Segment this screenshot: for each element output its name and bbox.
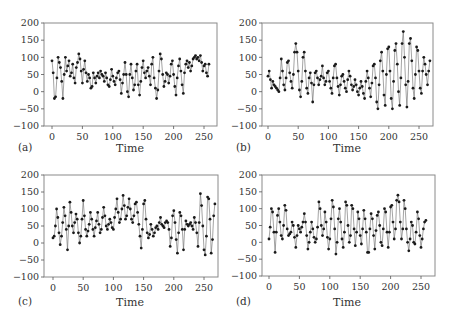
data-point [201, 225, 204, 228]
data-point [337, 217, 340, 220]
data-point [104, 214, 107, 217]
data-point [125, 73, 128, 76]
y-tick-label: 0 [33, 237, 39, 248]
data-point [142, 59, 145, 62]
data-point [137, 223, 140, 226]
data-point [121, 208, 124, 211]
data-point [172, 73, 175, 76]
data-point [72, 231, 75, 234]
data-point [371, 82, 374, 85]
data-point [159, 216, 162, 219]
data-point [299, 95, 302, 98]
data-point [63, 73, 66, 76]
data-point [81, 82, 84, 85]
data-point [317, 83, 320, 86]
data-point [114, 208, 117, 211]
data-point [327, 248, 330, 251]
data-point [302, 221, 305, 224]
data-point [122, 73, 125, 76]
data-point [282, 224, 285, 227]
data-point [128, 197, 131, 200]
data-point [370, 212, 373, 215]
data-point [199, 192, 202, 195]
data-point [273, 231, 276, 234]
data-point [275, 231, 278, 234]
data-point [330, 217, 333, 220]
data-point [403, 56, 406, 59]
data-point [211, 238, 214, 241]
data-point [136, 211, 139, 214]
data-point [353, 228, 356, 231]
data-point [201, 70, 204, 73]
data-point [373, 63, 376, 66]
data-point [94, 226, 97, 229]
data-point [397, 194, 400, 197]
data-point [352, 207, 355, 210]
y-tick-label: 0 [251, 237, 257, 248]
data-point [117, 211, 120, 214]
data-point [313, 236, 316, 239]
data-point [321, 65, 324, 68]
data-point [152, 56, 155, 59]
data-point [133, 83, 136, 86]
data-point [101, 216, 104, 219]
data-point [64, 56, 67, 59]
data-point [105, 225, 108, 228]
data-point [60, 235, 63, 238]
data-point [399, 221, 402, 224]
data-point [422, 228, 425, 231]
panel-c: −100−50050100150200050100150200250Time(c… [13, 169, 218, 309]
data-point [324, 211, 327, 214]
data-point [367, 77, 370, 80]
data-point [325, 80, 328, 83]
data-point [305, 87, 308, 90]
data-point [121, 82, 124, 85]
data-point [326, 236, 329, 239]
data-point [114, 83, 117, 86]
data-point [315, 238, 318, 241]
data-point [398, 201, 401, 204]
x-tick-label: 0 [266, 281, 272, 292]
data-point [59, 66, 62, 69]
data-point [95, 220, 98, 223]
data-point [281, 70, 284, 73]
data-point [296, 51, 299, 54]
data-point [332, 206, 335, 209]
data-point [271, 80, 274, 83]
data-point [277, 207, 280, 210]
x-tick-label: 200 [380, 131, 398, 142]
y-tick-label: 150 [21, 186, 39, 197]
data-point [139, 235, 142, 238]
data-point [107, 223, 110, 226]
y-tick-label: 0 [251, 86, 257, 97]
data-point [361, 228, 364, 231]
data-point [327, 70, 330, 73]
data-point [124, 61, 127, 64]
data-point [170, 63, 173, 66]
data-point [392, 221, 395, 224]
data-point [381, 244, 384, 247]
data-point [425, 73, 428, 76]
data-point [410, 221, 413, 224]
data-point [377, 211, 380, 214]
data-point [395, 199, 398, 202]
x-tick-label: 150 [134, 131, 152, 142]
data-point [397, 90, 400, 93]
data-point [342, 73, 345, 76]
x-tick-label: 250 [410, 131, 428, 142]
data-point [418, 70, 421, 73]
data-point [362, 209, 365, 212]
data-point [143, 199, 146, 202]
data-point [355, 83, 358, 86]
data-point [93, 235, 96, 238]
y-tick-label: 0 [33, 86, 39, 97]
data-point [155, 97, 158, 100]
data-point [138, 94, 141, 97]
data-point [76, 218, 79, 221]
data-point [402, 30, 405, 33]
data-point [396, 63, 399, 66]
y-tick-label: −100 [13, 120, 39, 131]
data-point [354, 78, 357, 81]
data-point [267, 75, 270, 78]
data-point [270, 207, 273, 210]
